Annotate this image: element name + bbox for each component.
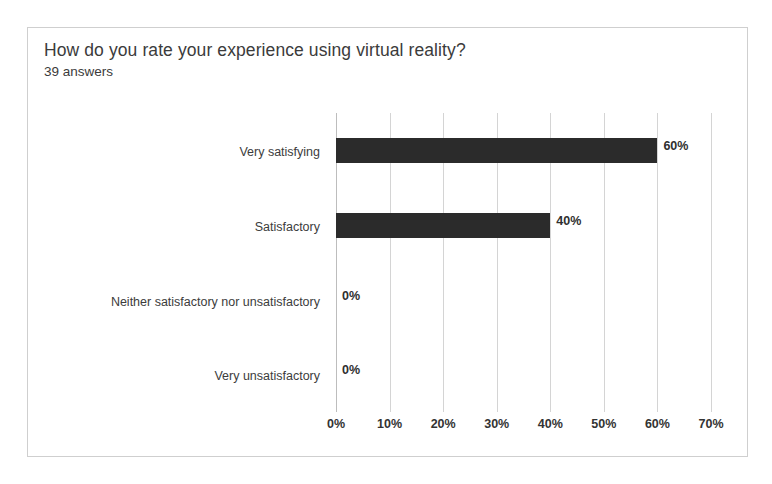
category-label-neither: Neither satisfactory nor unsatisfactory xyxy=(111,296,320,309)
x-tick-40pct: 40% xyxy=(538,418,563,431)
bar-value-very-unsatisfactory: 0% xyxy=(342,364,360,377)
bar-row: 60% xyxy=(336,113,711,188)
x-tick-0pct: 0% xyxy=(327,418,345,431)
plot-area: 60% 40% 0% 0% xyxy=(336,113,711,412)
gridline-70pct xyxy=(711,113,712,412)
category-label-satisfactory: Satisfactory xyxy=(255,221,320,234)
bar-row: 40% xyxy=(336,188,711,263)
chart-title: How do you rate your experience using vi… xyxy=(44,40,466,61)
category-label-very-unsatisfactory: Very unsatisfactory xyxy=(214,370,320,383)
bar-satisfactory xyxy=(336,213,550,238)
bar-value-very-satisfying: 60% xyxy=(663,140,688,153)
x-tick-30pct: 30% xyxy=(484,418,509,431)
x-tick-50pct: 50% xyxy=(591,418,616,431)
category-axis-labels: Very satisfying Satisfactory Neither sat… xyxy=(28,113,328,412)
x-tick-20pct: 20% xyxy=(431,418,456,431)
x-tick-10pct: 10% xyxy=(377,418,402,431)
bar-row: 0% xyxy=(336,263,711,338)
x-tick-60pct: 60% xyxy=(645,418,670,431)
bar-row: 0% xyxy=(336,337,711,412)
bars-layer: 60% 40% 0% 0% xyxy=(336,113,711,412)
bar-value-satisfactory: 40% xyxy=(556,215,581,228)
bar-very-satisfying xyxy=(336,138,657,163)
x-tick-70pct: 70% xyxy=(698,418,723,431)
category-label-very-satisfying: Very satisfying xyxy=(239,146,320,159)
chart-card: How do you rate your experience using vi… xyxy=(27,27,748,457)
x-axis-tick-labels: 0%10%20%30%40%50%60%70% xyxy=(336,418,711,438)
bar-value-neither: 0% xyxy=(342,290,360,303)
chart-answer-count: 39 answers xyxy=(44,64,113,79)
